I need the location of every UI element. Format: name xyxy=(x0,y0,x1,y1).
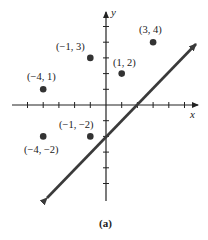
figure-caption: (a) xyxy=(99,217,112,230)
point-neg1-3 xyxy=(87,55,94,62)
label-neg1-3: (−1, 3) xyxy=(56,41,85,53)
point-neg4-1 xyxy=(40,86,47,93)
label-neg4-1: (−4, 1) xyxy=(27,71,56,83)
point-neg4-neg2 xyxy=(40,133,47,140)
point-1-2 xyxy=(118,70,125,77)
label-neg4-neg2: (−4, −2) xyxy=(24,144,59,156)
point-3-4 xyxy=(150,39,157,46)
data-points xyxy=(40,39,157,140)
y-axis-label: y xyxy=(110,6,116,18)
label-1-2: (1, 2) xyxy=(113,57,136,69)
label-3-4: (3, 4) xyxy=(139,24,162,36)
label-neg1-neg2: (−1, −2) xyxy=(59,119,94,131)
point-neg1-neg2 xyxy=(87,133,94,140)
x-axis-label: x xyxy=(189,108,195,120)
coordinate-plane: x y (−4, 1) (−1, 3) (1, 2) (3, 4) (−1, −… xyxy=(0,0,208,240)
